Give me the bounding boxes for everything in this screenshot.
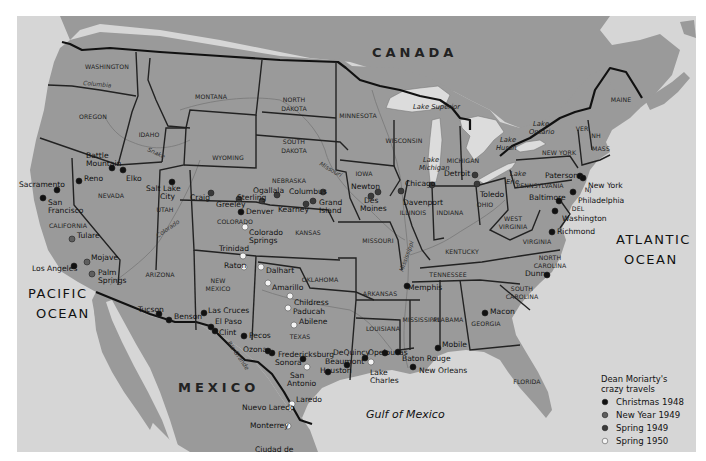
state-label-colorado: COLORADO: [217, 218, 253, 225]
city-marker-icon: [265, 280, 271, 286]
state-label-kansas: KANSAS: [295, 229, 321, 236]
city-houston: Houston: [320, 366, 352, 375]
state-label-new: NEW: [211, 277, 226, 284]
state-label-south: SOUTH: [511, 285, 534, 292]
state-label-washington: WASHINGTON: [85, 63, 129, 70]
state-label-nebraska: NEBRASKA: [272, 177, 307, 184]
lake-label: Lake: [510, 170, 526, 178]
city-label: Houston: [320, 366, 352, 375]
city-label: Toledo: [479, 190, 505, 199]
city-marker-icon: [304, 364, 310, 370]
gulf-label: Gulf of Mexico: [366, 408, 445, 421]
city-marker-icon: [580, 175, 586, 181]
gulf-of-mexico-label: Gulf of Mexico: [366, 408, 445, 421]
state-label-south: SOUTH: [283, 138, 306, 145]
city-label: Tucson: [137, 305, 164, 314]
state-label-montana: MONTANA: [195, 93, 228, 100]
city-label: Paducah: [293, 307, 325, 316]
state-label-wisconsin: WISCONSIN: [386, 137, 423, 144]
city-label: Trinidad: [218, 244, 249, 253]
state-label-georgia: GEORGIA: [471, 320, 501, 327]
city-label: Opelousas: [368, 348, 408, 357]
city-label: Columbus: [289, 187, 327, 196]
state-label-idaho: IDAHO: [139, 131, 160, 138]
city-label: Pecos: [249, 331, 271, 340]
city-label: Chicago: [405, 179, 436, 188]
city-marker-icon: [472, 172, 478, 178]
lake-label: Ontario: [529, 128, 554, 136]
state-label-oklahoma: OKLAHOMA: [302, 276, 339, 283]
state-label-wyoming: WYOMING: [212, 154, 244, 161]
city-marker-icon: [291, 322, 297, 328]
ocean-label: OCEAN: [624, 252, 678, 267]
city-label: Detroit: [444, 169, 470, 178]
city-marker-icon: [76, 178, 82, 184]
city-label: New Orleans: [419, 366, 467, 375]
city-label: Elko: [126, 174, 142, 183]
state-label-pennsylvania: PENNSYLVANIA: [516, 182, 564, 189]
lake-label: Lake: [423, 156, 439, 164]
city-label: Mountain: [86, 159, 122, 168]
city-marker-icon: [120, 167, 126, 173]
city-marker-icon: [552, 208, 558, 214]
city-label: Springs: [249, 236, 278, 245]
city-marker-icon: [570, 189, 576, 195]
state-label-west: WEST: [504, 215, 522, 222]
city-label: Los Angeles: [32, 264, 77, 273]
state-label-florida: FLORIDA: [513, 378, 541, 385]
state-label-tennessee: TENNESSEE: [428, 271, 466, 278]
city-label: Baltimore: [529, 193, 566, 202]
city-marker-icon: [166, 317, 172, 323]
state-label-carolina: CAROLINA: [506, 293, 539, 300]
city-marker-icon: [242, 224, 248, 230]
legend-label: Spring 1950: [616, 436, 668, 446]
state-label-mass: MASS: [592, 145, 610, 152]
city-label: City: [160, 192, 175, 201]
city-marker-icon: [208, 324, 214, 330]
city-label: DeQuincy: [333, 348, 370, 357]
state-label-new-york: NEW YORK: [542, 149, 577, 156]
city-marker-icon: [258, 264, 264, 270]
city-label: Moines: [360, 204, 387, 213]
state-label-mexico: MEXICO: [205, 285, 230, 292]
city-label: Raton: [224, 261, 246, 270]
legend-dot-icon: [602, 438, 608, 444]
city-label: New York: [588, 181, 623, 190]
state-label-nh: NH: [591, 132, 601, 139]
state-label-illinois: ILLINOIS: [400, 209, 427, 216]
city-label: Mojave: [91, 253, 118, 262]
state-label-alabama: ALABAMA: [433, 316, 464, 323]
city-label: Richmond: [557, 227, 595, 236]
ocean-label: PACIFIC: [28, 286, 87, 301]
state-label-texas: TEXAS: [289, 333, 311, 340]
state-label-nevada: NEVADA: [98, 192, 125, 199]
lake-label: Lake: [500, 136, 516, 144]
legend-dot-icon: [602, 412, 608, 418]
legend-label: New Year 1949: [616, 410, 680, 420]
city-label: Denver: [246, 207, 274, 216]
city-los-angeles: Los Angeles: [32, 263, 77, 273]
city-label: Reno: [84, 174, 103, 183]
city-label: Philadelphia: [578, 196, 624, 205]
city-marker-icon: [89, 271, 95, 277]
city-label: Washington: [562, 214, 607, 223]
state-label-del: DEL: [572, 205, 585, 212]
city-label: Mobile: [442, 340, 467, 349]
city-nuevo-laredo: Nuevo Laredo: [242, 403, 295, 412]
lake-label: Huron: [496, 144, 517, 152]
city-marker-icon: [410, 364, 416, 370]
city-marker-icon: [310, 198, 316, 204]
city-label: Macon: [490, 307, 515, 316]
state-label-minnesota: MINNESOTA: [339, 112, 377, 119]
city-label: Craig: [190, 193, 210, 202]
city-colorado-springs: ColoradoSprings: [242, 224, 283, 245]
city-las-cruces: Las Cruces: [201, 306, 249, 316]
city-memphis: Memphis: [404, 283, 442, 292]
city-marker-icon: [84, 259, 90, 265]
lake-label: Lake Superior: [413, 103, 461, 111]
city-label: Paterson: [545, 171, 578, 180]
city-label: Laredo: [296, 395, 322, 404]
legend-dot-icon: [602, 425, 608, 431]
country-label-mexico: MEXICO: [178, 380, 259, 395]
state-label-arkansas: ARKANSAS: [363, 290, 397, 297]
